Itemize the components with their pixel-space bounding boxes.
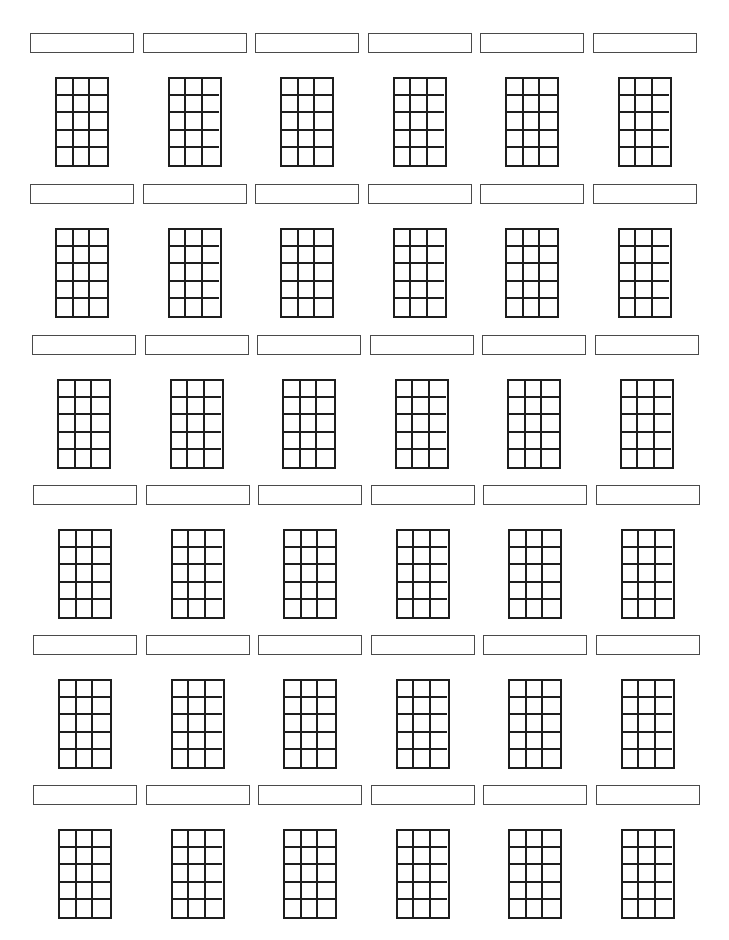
- fret-cell: [540, 96, 557, 113]
- fret-cell: [57, 113, 74, 130]
- fretboard-grid: [621, 679, 675, 769]
- fret-cell: [57, 79, 74, 96]
- fret-cell: [205, 415, 222, 432]
- chord-worksheet: [0, 0, 729, 940]
- fret-cell: [431, 831, 448, 848]
- fret-cell: [510, 883, 527, 900]
- fret-cell: [638, 433, 655, 450]
- chord-name-box: [480, 184, 584, 204]
- chord-name-box: [33, 785, 137, 805]
- fret-cell: [639, 750, 656, 767]
- fret-cell: [203, 79, 220, 96]
- fret-cell: [302, 548, 319, 565]
- fret-cell: [414, 583, 431, 600]
- fret-cell: [623, 848, 640, 865]
- fret-cell: [639, 698, 656, 715]
- fret-cell: [431, 600, 448, 617]
- fret-cell: [431, 865, 448, 882]
- chord-diagram-slot: [368, 33, 474, 173]
- fret-cell: [206, 681, 223, 698]
- fret-cell: [622, 415, 639, 432]
- fret-cell: [74, 113, 91, 130]
- chord-name-box: [483, 635, 587, 655]
- fret-cell: [173, 565, 190, 582]
- fret-cell: [413, 415, 430, 432]
- fret-cell: [189, 848, 206, 865]
- fret-cell: [507, 282, 524, 299]
- fret-cell: [428, 79, 445, 96]
- fret-cell: [189, 698, 206, 715]
- fret-cell: [395, 148, 412, 165]
- fret-cell: [60, 565, 77, 582]
- chord-diagram-slot: [143, 33, 249, 173]
- fret-cell: [510, 600, 527, 617]
- fret-cell: [60, 848, 77, 865]
- fret-cell: [543, 900, 560, 917]
- fret-cell: [186, 148, 203, 165]
- fret-cell: [414, 848, 431, 865]
- fret-cell: [285, 865, 302, 882]
- fret-cell: [639, 715, 656, 732]
- fret-cell: [318, 583, 335, 600]
- fret-cell: [395, 282, 412, 299]
- fret-cell: [411, 148, 428, 165]
- fret-cell: [285, 531, 302, 548]
- fret-cell: [655, 450, 672, 467]
- fret-cell: [315, 113, 332, 130]
- fretboard-grid: [58, 679, 112, 769]
- fret-cell: [623, 900, 640, 917]
- fret-cell: [527, 750, 544, 767]
- fret-cell: [203, 148, 220, 165]
- fret-cell: [414, 600, 431, 617]
- fret-cell: [623, 715, 640, 732]
- chord-diagram-slot: [258, 485, 364, 625]
- fret-cell: [395, 299, 412, 316]
- fret-cell: [93, 531, 110, 548]
- fretboard-grid: [621, 829, 675, 919]
- fret-cell: [282, 299, 299, 316]
- fret-cell: [653, 230, 670, 247]
- fretboard-grid: [280, 77, 334, 167]
- fret-cell: [318, 698, 335, 715]
- fret-cell: [302, 848, 319, 865]
- fret-cell: [299, 113, 316, 130]
- fret-cell: [414, 565, 431, 582]
- fret-cell: [398, 715, 415, 732]
- chord-name-box: [596, 635, 700, 655]
- fret-cell: [431, 848, 448, 865]
- fret-cell: [656, 715, 673, 732]
- chord-diagram-slot: [370, 335, 476, 475]
- fret-cell: [317, 381, 334, 398]
- fret-cell: [299, 264, 316, 281]
- chord-diagram-slot: [258, 785, 364, 925]
- fret-cell: [653, 282, 670, 299]
- fret-cell: [57, 299, 74, 316]
- chord-diagram-slot: [368, 184, 474, 324]
- fret-cell: [638, 381, 655, 398]
- fret-cell: [59, 450, 76, 467]
- chord-name-box: [593, 33, 697, 53]
- fret-cell: [526, 398, 543, 415]
- fret-cell: [639, 831, 656, 848]
- fret-cell: [526, 450, 543, 467]
- fret-cell: [93, 698, 110, 715]
- fret-cell: [60, 733, 77, 750]
- fret-cell: [620, 79, 637, 96]
- fret-cell: [542, 398, 559, 415]
- fret-cell: [623, 831, 640, 848]
- fret-cell: [317, 450, 334, 467]
- fretboard-grid: [393, 77, 447, 167]
- fret-cell: [656, 600, 673, 617]
- fretboard-grid: [283, 529, 337, 619]
- fret-cell: [623, 600, 640, 617]
- fret-cell: [413, 450, 430, 467]
- fret-cell: [540, 230, 557, 247]
- fret-cell: [189, 831, 206, 848]
- fret-cell: [524, 79, 541, 96]
- fret-cell: [188, 381, 205, 398]
- fret-cell: [414, 733, 431, 750]
- fret-cell: [395, 264, 412, 281]
- fret-cell: [638, 450, 655, 467]
- fret-cell: [656, 681, 673, 698]
- fret-cell: [93, 565, 110, 582]
